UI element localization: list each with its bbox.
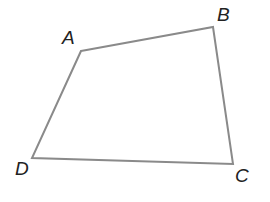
vertex-label-a: A (61, 27, 75, 48)
vertex-label-b: B (217, 4, 230, 25)
vertex-label-d: D (15, 158, 29, 179)
quadrilateral-diagram: A B C D (0, 0, 270, 202)
vertex-label-c: C (235, 165, 249, 186)
